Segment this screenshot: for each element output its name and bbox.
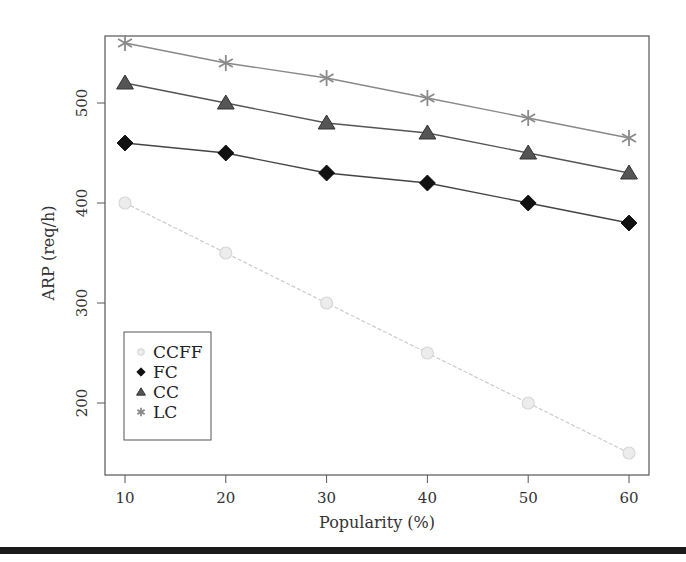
legend-label: CC <box>153 382 179 402</box>
x-tick-label: 20 <box>216 489 235 507</box>
legend-label: LC <box>153 402 177 422</box>
circle-marker <box>522 397 534 409</box>
circle-marker <box>421 347 433 359</box>
series-line <box>125 83 629 173</box>
legend-label: CCFF <box>153 342 203 362</box>
series-lc <box>118 35 636 146</box>
asterisk-marker <box>622 130 636 146</box>
diamond-marker <box>520 195 536 211</box>
series-line <box>125 43 629 138</box>
circle-marker <box>321 297 333 309</box>
legend: CCFFFCCCLC <box>124 332 211 440</box>
diamond-marker <box>419 175 435 191</box>
y-tick-label: 500 <box>73 89 91 118</box>
circle-marker <box>623 447 635 459</box>
asterisk-marker <box>320 70 334 86</box>
y-axis-label: ARP (req/h) <box>39 206 58 302</box>
y-tick-label: 300 <box>73 289 91 318</box>
triangle-marker <box>117 75 134 89</box>
asterisk-marker <box>219 55 233 71</box>
y-tick-label: 200 <box>73 389 91 418</box>
x-axis: 102030405060 <box>115 475 638 507</box>
y-tick-label: 400 <box>73 189 91 218</box>
x-tick-label: 60 <box>619 489 638 507</box>
diamond-marker <box>117 135 133 151</box>
bottom-rule <box>0 547 686 554</box>
diamond-marker <box>319 165 335 181</box>
asterisk-marker <box>118 35 132 51</box>
circle-marker <box>220 247 232 259</box>
x-tick-label: 10 <box>115 489 134 507</box>
diamond-marker <box>218 145 234 161</box>
x-tick-label: 30 <box>317 489 336 507</box>
asterisk-marker <box>521 110 535 126</box>
x-tick-label: 40 <box>418 489 437 507</box>
asterisk-marker <box>420 90 434 106</box>
line-chart: 102030405060 200300400500 Popularity (%)… <box>0 0 686 562</box>
circle-marker <box>138 349 144 355</box>
diamond-marker <box>621 215 637 231</box>
series-fc <box>117 135 637 231</box>
legend-label: FC <box>153 362 178 382</box>
y-axis: 200300400500 <box>73 89 105 418</box>
series-cc <box>117 75 638 179</box>
x-axis-label: Popularity (%) <box>319 513 435 532</box>
circle-marker <box>119 197 131 209</box>
x-tick-label: 50 <box>519 489 538 507</box>
series-line <box>125 143 629 223</box>
